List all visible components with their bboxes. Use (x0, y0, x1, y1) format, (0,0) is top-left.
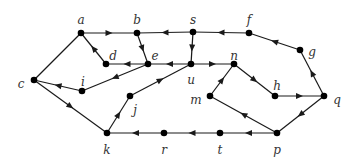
arrowhead-icon (112, 73, 120, 79)
node-label-i: i (81, 75, 85, 89)
node-label-h: h (273, 79, 281, 93)
node-p (274, 130, 281, 137)
node-label-d: d (109, 49, 117, 63)
node-u (188, 61, 195, 68)
arrowhead-icon (189, 130, 196, 136)
node-b (134, 30, 141, 37)
arrowhead-icon (271, 40, 279, 46)
arrowhead-icon (250, 75, 257, 82)
arrowhead-icon (162, 29, 169, 35)
node-i (79, 88, 86, 95)
arrowhead-icon (66, 102, 73, 109)
node-label-m: m (190, 93, 201, 107)
arrowhead-icon (106, 30, 113, 36)
node-label-g: g (308, 45, 316, 59)
node-label-k: k (103, 143, 110, 157)
arrowhead-icon (189, 44, 195, 51)
node-f (246, 30, 253, 37)
edge-a-c (34, 33, 81, 80)
node-s (190, 29, 197, 36)
node-t (217, 130, 224, 137)
node-j (127, 93, 134, 100)
node-label-r: r (161, 143, 168, 157)
arrowhead-icon (114, 112, 120, 120)
arrowhead-icon (139, 44, 145, 52)
node-g (297, 47, 304, 54)
node-r (161, 130, 168, 137)
node-label-s: s (190, 13, 196, 27)
arrowhead-icon (218, 30, 225, 36)
node-label-a: a (77, 13, 84, 27)
arrowhead-icon (218, 77, 225, 84)
node-label-f: f (246, 13, 254, 27)
node-a (78, 30, 85, 37)
node-label-n: n (230, 49, 238, 63)
node-e (145, 61, 152, 68)
labels-layer: absfgdeuncimhqjkrtp (18, 13, 342, 157)
node-label-c: c (18, 77, 25, 91)
node-label-p: p (273, 143, 281, 157)
node-m (207, 93, 214, 100)
node-k (104, 130, 111, 137)
node-q (321, 93, 328, 100)
arrowhead-icon (166, 61, 173, 67)
node-h (272, 93, 279, 100)
arrowhead-icon (245, 130, 252, 136)
node-c (31, 77, 38, 84)
node-label-j: j (130, 103, 137, 117)
graph-canvas: absfgdeuncimhqjkrtp (0, 0, 355, 162)
directed-graph: absfgdeuncimhqjkrtp (0, 0, 355, 162)
node-label-q: q (333, 93, 341, 107)
node-label-t: t (218, 143, 223, 157)
node-label-b: b (133, 13, 141, 27)
arrowhead-icon (132, 130, 139, 136)
node-label-e: e (151, 49, 158, 63)
arrowhead-icon (209, 61, 216, 67)
arrowhead-icon (124, 61, 131, 67)
arrowhead-icon (296, 93, 303, 99)
node-label-u: u (187, 73, 195, 87)
arrowhead-icon (55, 83, 62, 89)
